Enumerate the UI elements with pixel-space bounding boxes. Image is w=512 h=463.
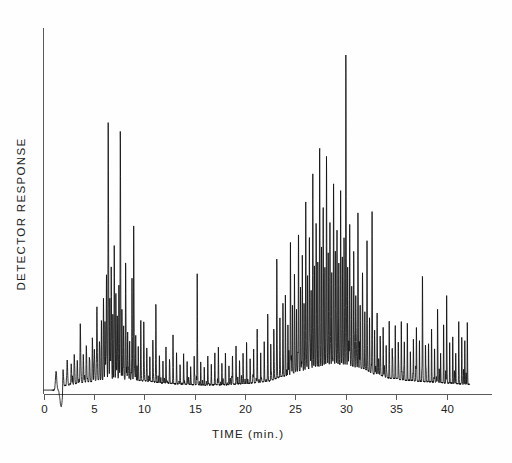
x-axis-tick-label: 20 bbox=[239, 403, 252, 415]
chromatogram-trace bbox=[44, 55, 470, 407]
x-axis-tick-label: 0 bbox=[41, 403, 48, 415]
x-axis-tick-label: 40 bbox=[441, 403, 454, 415]
x-axis-tick-label: 5 bbox=[91, 403, 98, 415]
x-axis-tick-label: 30 bbox=[340, 403, 353, 415]
x-axis-tick-label: 10 bbox=[138, 403, 151, 415]
x-axis-ticks bbox=[45, 395, 448, 400]
x-axis-tick-label: 35 bbox=[390, 403, 403, 415]
x-axis-tick-label: 25 bbox=[289, 403, 302, 415]
x-axis-tick-label: 15 bbox=[189, 403, 202, 415]
x-axis-title: TIME (min.) bbox=[212, 428, 284, 440]
x-axis-tick-labels: 0510152025303540 bbox=[41, 403, 454, 415]
chromatogram-figure: 0510152025303540 TIME (min.) DETECTOR RE… bbox=[0, 0, 512, 463]
chromatogram-plot: 0510152025303540 TIME (min.) DETECTOR RE… bbox=[0, 0, 512, 463]
y-axis-title: DETECTOR RESPONSE bbox=[15, 137, 27, 290]
